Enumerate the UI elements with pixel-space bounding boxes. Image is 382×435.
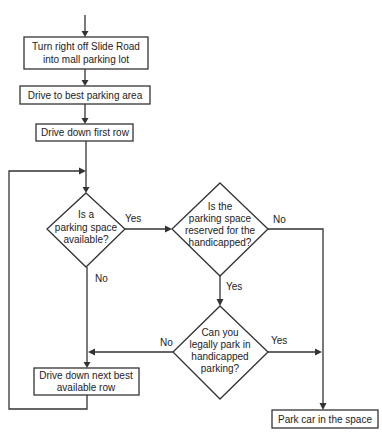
node-first-row: Drive down first row (36, 124, 133, 141)
node-first-row-label: Drive down first row (41, 127, 130, 138)
node-reserved-line-3: reserved for the (185, 225, 255, 236)
node-next-row-line-2: available row (57, 382, 116, 393)
node-best-area-label: Drive to best parking area (28, 90, 143, 101)
label-reserved-no: No (273, 214, 286, 225)
node-turn-right: Turn right off Slide Road into mall park… (24, 37, 148, 69)
entry-arrow (82, 15, 89, 37)
arrow-reserved-no: No (268, 214, 327, 410)
label-legally-no: No (160, 337, 173, 348)
node-legally-line-4: parking? (201, 363, 240, 374)
arrow-turn-right-to-best-area (82, 69, 89, 86)
node-reserved-handicapped: Is the parking space reserved for the ha… (172, 183, 268, 276)
node-park-car: Park car in the space (272, 410, 378, 428)
arrow-first-row-to-space-available (83, 141, 90, 193)
node-space-available: Is a parking space available? (47, 193, 125, 267)
node-legally-line-2: legally park in (189, 339, 250, 350)
node-space-available-line-1: Is a (78, 209, 95, 220)
node-next-row-line-1: Drive down next best (39, 370, 133, 381)
label-space-available-yes: Yes (125, 213, 141, 224)
node-legally-park: Can you legally park in handicapped park… (173, 306, 268, 399)
flowchart-canvas: Turn right off Slide Road into mall park… (0, 0, 382, 435)
node-next-row: Drive down next best available row (34, 368, 139, 395)
node-turn-right-line-2: into mall parking lot (43, 54, 129, 65)
arrow-space-available-yes: Yes (125, 213, 172, 233)
arrow-reserved-yes: Yes (217, 276, 243, 306)
arrow-best-area-to-first-row (82, 104, 89, 124)
arrow-legally-no: No (88, 337, 173, 356)
node-legally-line-3: handicapped (191, 351, 248, 362)
label-space-available-no: No (95, 273, 108, 284)
node-reserved-line-2: parking space (189, 213, 252, 224)
node-reserved-line-1: Is the (208, 201, 233, 212)
node-legally-line-1: Can you (201, 327, 238, 338)
label-legally-yes: Yes (271, 335, 287, 346)
node-space-available-line-3: available? (63, 234, 108, 245)
node-turn-right-line-1: Turn right off Slide Road (32, 41, 140, 52)
node-space-available-line-2: parking space (55, 222, 118, 233)
arrow-space-available-no: No (84, 267, 109, 368)
node-reserved-line-4: handicapped? (189, 237, 252, 248)
arrow-legally-yes: Yes (268, 335, 322, 356)
node-best-area: Drive to best parking area (20, 86, 150, 104)
label-reserved-yes: Yes (226, 281, 242, 292)
node-park-car-label: Park car in the space (278, 414, 372, 425)
